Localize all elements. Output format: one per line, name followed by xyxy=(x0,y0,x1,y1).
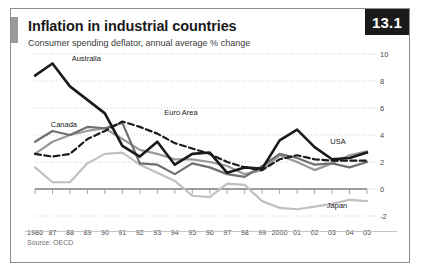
y-axis-tick-label: 0 xyxy=(380,185,384,194)
series-label-usa: USA xyxy=(330,137,345,146)
x-axis-tick-label: 01 xyxy=(293,228,301,237)
x-axis-tick-label: 89 xyxy=(83,228,91,237)
series-group xyxy=(35,63,367,209)
x-axis-tick-label: 95 xyxy=(188,228,196,237)
y-axis-tick-label: 8 xyxy=(380,77,384,86)
y-axis-tick-label: 4 xyxy=(380,131,384,140)
gridlines-group xyxy=(35,54,367,216)
x-axis-tick-label: 99 xyxy=(258,228,266,237)
x-axis-tick-label: 93 xyxy=(153,228,161,237)
x-axis-tick-label: 1986 xyxy=(27,228,43,237)
x-axis-tick-label: 96 xyxy=(206,228,214,237)
x-axis-tick-label: 92 xyxy=(136,228,144,237)
x-axis-tick-label: 05 xyxy=(363,228,371,237)
x-axis-tick-label: 91 xyxy=(118,228,126,237)
y-axis-tick-label: 6 xyxy=(380,104,384,113)
x-axis-tick-label: 04 xyxy=(346,228,354,237)
footer-divider xyxy=(25,231,397,232)
line-chart-svg: -202468101986878889909192939495969798992… xyxy=(11,9,411,264)
series-label-australia: Australia xyxy=(72,54,102,63)
x-axis-tick-label: 87 xyxy=(48,228,56,237)
series-label-euro-area: Euro Area xyxy=(164,108,198,117)
x-axis-tick-label: 2000 xyxy=(272,228,288,237)
chart-plot-area: -202468101986878889909192939495969798992… xyxy=(11,9,411,264)
x-axis-tick-label: 94 xyxy=(171,228,179,237)
y-axis-tick-label: 10 xyxy=(380,50,388,59)
x-axis-tick-label: 03 xyxy=(328,228,336,237)
series-label-japan: Japan xyxy=(327,201,347,210)
y-axis-tick-label: 2 xyxy=(380,158,384,167)
x-axis-tick-label: 98 xyxy=(241,228,249,237)
x-axis-tick-label: 88 xyxy=(66,228,74,237)
x-axis-tick-label: 90 xyxy=(101,228,109,237)
figure-panel: 13.1 Inflation in industrial countries C… xyxy=(10,8,410,263)
x-axis-tick-label: 02 xyxy=(311,228,319,237)
series-label-canada: Canada xyxy=(51,120,78,129)
source-note: Source: OECD xyxy=(27,239,73,246)
x-axis-tick-label: 97 xyxy=(223,228,231,237)
y-axis-tick-label: -2 xyxy=(380,212,387,221)
series-line-australia xyxy=(35,63,367,172)
